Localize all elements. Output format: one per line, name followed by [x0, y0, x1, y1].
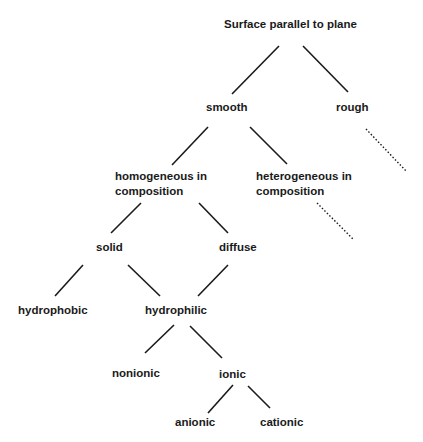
node-homogeneous-line2: composition: [115, 184, 183, 199]
edge-heterogeneous-dotted: [317, 203, 354, 240]
node-homogeneous-line1: homogeneous in: [115, 169, 207, 184]
edge-hydrophilic-nonionic: [145, 325, 174, 353]
node-smooth: smooth: [206, 100, 248, 115]
node-hydrophobic: hydrophobic: [18, 303, 88, 318]
node-ionic: ionic: [219, 367, 246, 382]
node-rough: rough: [336, 100, 369, 115]
edge-smooth-heterogeneous: [250, 127, 287, 164]
node-heterogeneous-line2: composition: [256, 184, 324, 199]
edge-root-smooth: [232, 46, 279, 94]
node-root: Surface parallel to plane: [224, 17, 357, 32]
edge-solid-hydrophilic: [128, 265, 160, 296]
edge-smooth-homogeneous: [172, 127, 208, 165]
edge-homogeneous-diffuse: [199, 203, 228, 233]
edge-homogeneous-solid: [111, 203, 141, 233]
edge-root-rough: [303, 46, 348, 92]
edge-ionic-anionic: [208, 385, 233, 413]
node-hydrophilic: hydrophilic: [145, 303, 207, 318]
connector-lines: [0, 0, 423, 442]
edge-hydrophilic-ionic: [190, 326, 222, 358]
edge-diffuse-hydrophilic: [198, 265, 228, 296]
node-anionic: anionic: [175, 415, 215, 430]
node-heterogeneous-line1: heterogeneous in: [256, 169, 352, 184]
edge-solid-hydrophobic: [55, 265, 83, 296]
node-diffuse: diffuse: [219, 240, 257, 255]
node-solid: solid: [96, 240, 123, 255]
node-cationic: cationic: [260, 415, 303, 430]
edge-ionic-cationic: [248, 386, 270, 408]
node-nonionic: nonionic: [112, 366, 160, 381]
edge-rough-dotted: [366, 129, 407, 172]
surface-classification-diagram: Surface parallel to plane smooth rough h…: [0, 0, 423, 442]
